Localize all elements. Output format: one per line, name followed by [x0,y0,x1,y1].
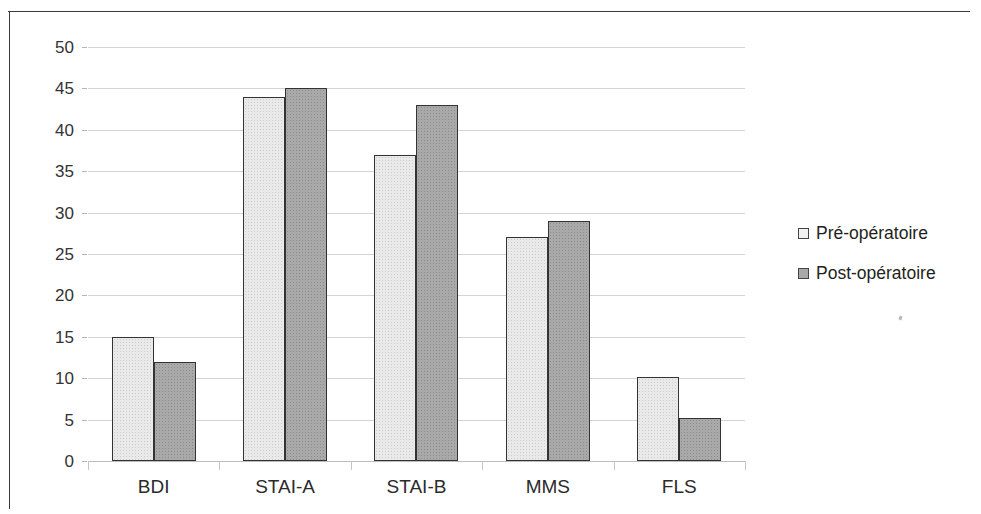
x-axis-tick-mark [745,461,746,470]
legend-swatch-icon-pre [798,228,809,239]
category-group: STAI-B [351,47,482,461]
chart-legend: Pré-opératoire Post-opératoire [798,225,973,304]
x-axis-tick-mark [482,461,483,470]
y-axis-tick-mark [82,295,87,296]
y-axis-tick-mark [82,213,87,214]
y-axis-tick-label: 45 [28,80,74,97]
y-axis-tick-mark [82,378,87,379]
category-group: STAI-A [219,47,350,461]
x-axis-tick-mark [614,461,615,470]
y-axis-tick-mark [82,47,87,48]
axis-line-zero [88,461,745,462]
x-axis-category-label: STAI-B [351,477,482,496]
y-axis-tick-label: 50 [28,39,74,56]
bar-stai-a-pre [243,97,285,461]
y-axis-tick-label: 15 [28,328,74,345]
bar-pair [482,47,613,461]
x-axis-tick-mark [88,461,89,470]
x-axis-tick-mark [351,461,352,470]
bar-fls-pre [637,377,679,461]
legend-item-pre-operatoire: Pré-opératoire [798,225,973,243]
x-axis-category-label: BDI [88,477,219,496]
legend-item-post-operatoire: Post-opératoire [798,265,973,283]
y-axis-tick-mark [82,420,87,421]
legend-swatch-icon-post [798,268,809,279]
bar-pair [351,47,482,461]
y-axis-tick-mark [82,254,87,255]
bar-bdi-pre [112,337,154,461]
bar-pair [219,47,350,461]
y-axis-tick-label: 0 [28,453,74,470]
y-axis-tick-label: 10 [28,370,74,387]
legend-label-post: Post-opératoire [816,265,936,283]
bar-stai-b-pre [374,155,416,461]
x-axis-category-label: FLS [614,477,745,496]
bar-chart: 05101520253035404550BDISTAI-ASTAI-BMMSFL… [0,0,981,514]
x-axis-category-label: STAI-A [219,477,350,496]
bar-stai-b-post [416,105,458,461]
y-axis-tick-label: 40 [28,121,74,138]
category-group: MMS [482,47,613,461]
bar-pair [614,47,745,461]
category-group: FLS [614,47,745,461]
plot-area: 05101520253035404550BDISTAI-ASTAI-BMMSFL… [88,47,745,461]
y-axis-tick-label: 35 [28,163,74,180]
y-axis-tick-label: 25 [28,246,74,263]
bar-stai-a-post [285,88,327,461]
x-axis-category-label: MMS [482,477,613,496]
bar-bdi-post [154,362,196,461]
y-axis-tick-mark [82,337,87,338]
y-axis-tick-mark [82,130,87,131]
bar-mms-pre [506,237,548,461]
y-axis-tick-label: 20 [28,287,74,304]
chart-page: 05101520253035404550BDISTAI-ASTAI-BMMSFL… [0,0,981,514]
legend-label-pre: Pré-opératoire [816,225,928,243]
bar-fls-post [679,418,721,461]
y-axis-tick-label: 5 [28,411,74,428]
y-axis-tick-mark [82,461,87,462]
bar-pair [88,47,219,461]
y-axis-tick-mark [82,171,87,172]
scan-artifact-speck [898,316,902,321]
category-group: BDI [88,47,219,461]
y-axis-tick-mark [82,88,87,89]
y-axis-tick-label: 30 [28,204,74,221]
bar-mms-post [548,221,590,461]
x-axis-tick-mark [219,461,220,470]
